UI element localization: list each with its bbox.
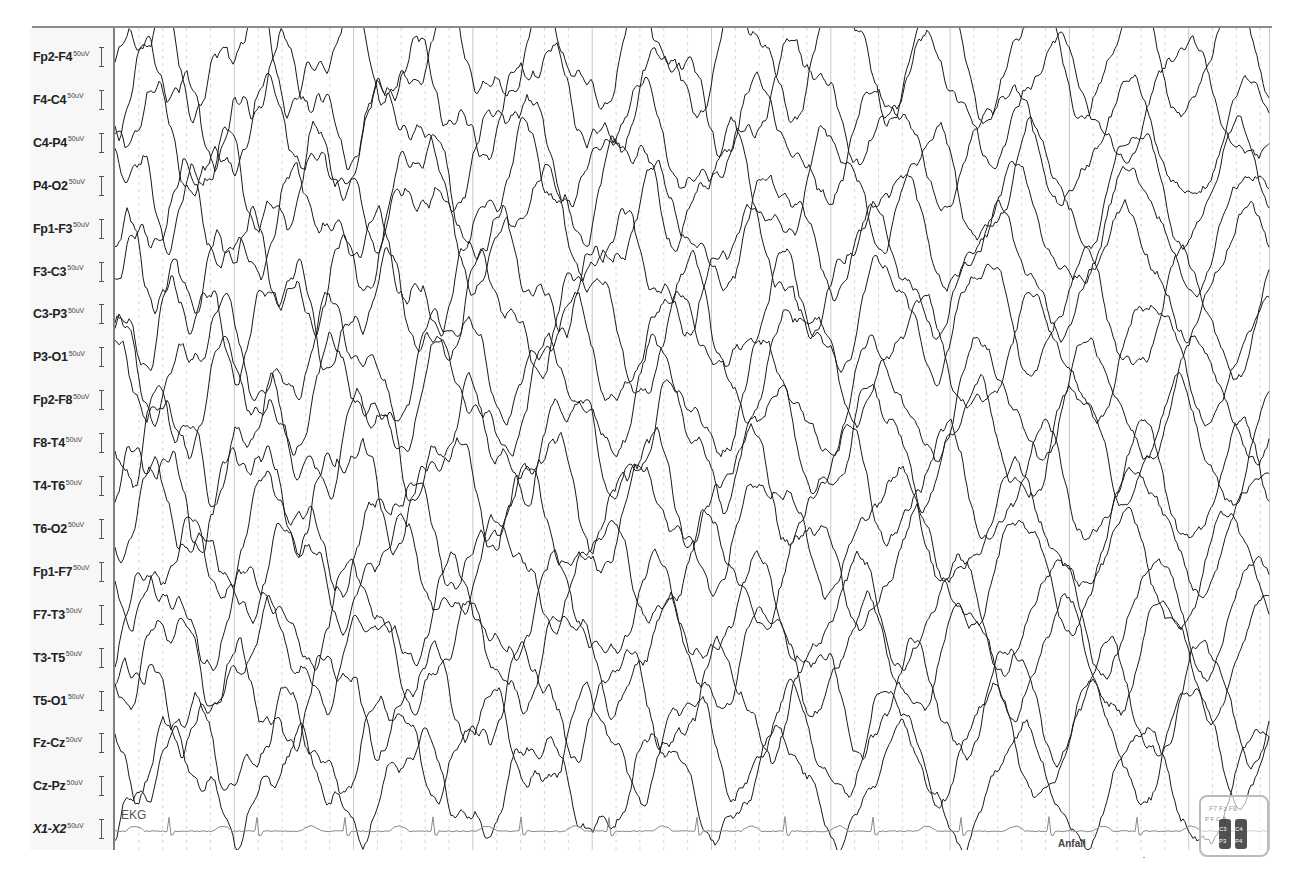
eeg-viewer: Fp2-F450uVF4-C450uVC4-P450uVP4-O250uVFp1…: [0, 0, 1297, 869]
channel-label[interactable]: C3-P350uV: [33, 304, 84, 324]
scale-bar-icon: [99, 390, 105, 410]
channel-sensitivity: 50uV: [66, 607, 82, 614]
channel-label[interactable]: F3-C350uV: [33, 262, 84, 282]
channel-name: Fp1-F3: [33, 222, 72, 236]
channel-label[interactable]: F4-C450uV: [33, 90, 84, 110]
channel-sensitivity: 50uV: [68, 521, 84, 528]
ekg-trace-label: EKG: [121, 808, 146, 822]
channel-name: F4-C4: [33, 93, 66, 107]
scale-bar-icon: [99, 176, 105, 196]
channel-sensitivity: 50uV: [66, 436, 82, 443]
channel-label[interactable]: Fp2-F450uV: [33, 47, 90, 67]
channel-name: Fp2-F8: [33, 393, 72, 407]
head-electrode-map-icon[interactable]: F7 Fz F8 P F C 2 C3 C4 P3 P4: [1199, 795, 1269, 857]
scale-bar-icon: [99, 433, 105, 453]
channel-name: C4-P4: [33, 136, 67, 150]
eeg-traces: [115, 28, 1269, 850]
scale-bar-icon: [99, 691, 105, 711]
scale-bar-icon: [99, 776, 105, 796]
scale-bar-icon: [99, 476, 105, 496]
channel-label[interactable]: Fp1-F350uV: [33, 219, 90, 239]
channel-sensitivity: 50uV: [69, 350, 85, 357]
channel-label[interactable]: Cz-Pz50uV: [33, 776, 83, 796]
channel-name: T4-T6: [33, 479, 65, 493]
channel-name: X1-X2: [33, 822, 66, 836]
channel-name: Fp2-F4: [33, 50, 72, 64]
channel-label[interactable]: P4-O250uV: [33, 176, 85, 196]
channel-name: F8-T4: [33, 436, 65, 450]
channel-sensitivity: 50uV: [67, 264, 83, 271]
channel-sensitivity: 50uV: [68, 135, 84, 142]
scale-bar-icon: [99, 819, 105, 839]
channel-label[interactable]: Fz-Cz50uV: [33, 733, 82, 753]
channel-label[interactable]: F7-T350uV: [33, 605, 82, 625]
scale-bar-icon: [99, 90, 105, 110]
channel-label[interactable]: P3-O150uV: [33, 347, 85, 367]
scale-bar-icon: [99, 47, 105, 67]
channel-label[interactable]: Fp2-F850uV: [33, 390, 90, 410]
channel-sensitivity: 50uV: [73, 50, 89, 57]
scale-bar-icon: [99, 347, 105, 367]
channel-sensitivity: 50uV: [66, 650, 82, 657]
channel-sensitivity: 50uV: [66, 736, 82, 743]
channel-label[interactable]: F8-T450uV: [33, 433, 82, 453]
scale-bar-icon: [99, 262, 105, 282]
channel-name: Fp1-F7: [33, 565, 72, 579]
channel-sensitivity: 50uV: [67, 822, 83, 829]
channel-name: P3-O1: [33, 350, 68, 364]
electrode-map-glyph: F7 Fz F8 P F C 2 C3 C4 P3 P4: [1201, 797, 1267, 855]
scale-bar-icon: [99, 562, 105, 582]
channel-name: T6-O2: [33, 522, 67, 536]
scale-bar-icon: [99, 304, 105, 324]
channel-sensitivity: 50uV: [66, 479, 82, 486]
channel-sensitivity: 50uV: [68, 693, 84, 700]
channel-sensitivity: 50uV: [67, 92, 83, 99]
channel-sensitivity: 50uV: [67, 779, 83, 786]
channel-sensitivity: 50uV: [69, 178, 85, 185]
channel-name: Fz-Cz: [33, 736, 65, 750]
channel-name: P4-O2: [33, 179, 68, 193]
channel-name: Cz-Pz: [33, 779, 66, 793]
stray-pixel: [1143, 857, 1145, 858]
scale-bar-icon: [99, 605, 105, 625]
svg-text:C4: C4: [1235, 826, 1243, 832]
channel-name: F7-T3: [33, 608, 65, 622]
svg-text:P4: P4: [1235, 838, 1243, 844]
scale-bar-icon: [99, 648, 105, 668]
scale-bar-icon: [99, 733, 105, 753]
channel-label[interactable]: T4-T650uV: [33, 476, 82, 496]
channel-sensitivity: 50uV: [73, 393, 89, 400]
channel-label[interactable]: T6-O250uV: [33, 519, 84, 539]
channel-label[interactable]: Fp1-F750uV: [33, 562, 90, 582]
scale-bar-icon: [99, 219, 105, 239]
eeg-trace-canvas[interactable]: [115, 28, 1270, 850]
svg-text:P3: P3: [1219, 838, 1227, 844]
channel-sensitivity: 50uV: [73, 221, 89, 228]
channel-name: C3-P3: [33, 307, 67, 321]
channel-label[interactable]: C4-P450uV: [33, 133, 84, 153]
channel-label[interactable]: X1-X250uV: [33, 819, 84, 839]
scale-bar-icon: [99, 133, 105, 153]
channel-sensitivity: 50uV: [68, 307, 84, 314]
channel-label[interactable]: T5-O150uV: [33, 691, 84, 711]
channel-label[interactable]: T3-T550uV: [33, 648, 82, 668]
svg-text:C3: C3: [1219, 826, 1227, 832]
channel-name: F3-C3: [33, 265, 66, 279]
channel-name: T5-O1: [33, 694, 67, 708]
seizure-event-marker[interactable]: Anfall: [1058, 838, 1086, 849]
svg-text:F7 Fz F8: F7 Fz F8: [1209, 805, 1237, 812]
channel-sensitivity: 50uV: [73, 564, 89, 571]
channel-name: T3-T5: [33, 651, 65, 665]
scale-bar-icon: [99, 519, 105, 539]
